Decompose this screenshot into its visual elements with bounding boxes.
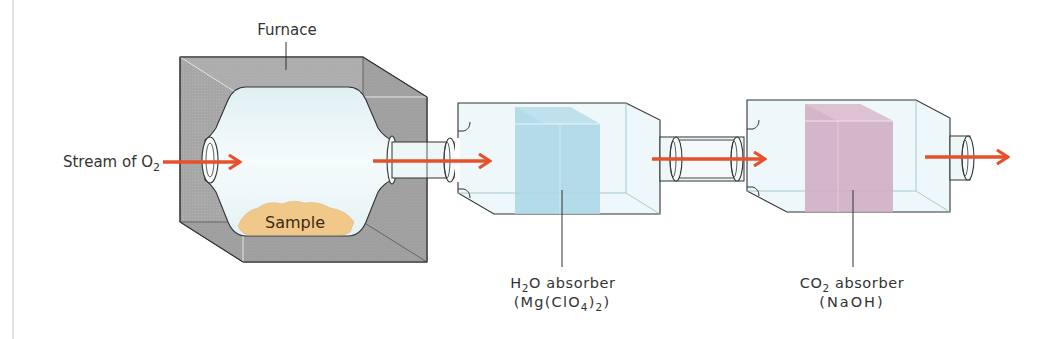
- diagram-stage: Furnace Sample: [0, 0, 1050, 339]
- co2-absorber-block: [805, 104, 893, 212]
- sample-label: Sample: [265, 213, 325, 232]
- stream-of-o2-label: Stream of O2: [63, 153, 160, 174]
- h2o-absorber-label-line2: (Mg(ClO4)2): [514, 294, 611, 313]
- co2-absorber-label-line1: CO2 absorber: [800, 275, 905, 294]
- co2-absorber-label-line2: (NaOH): [819, 294, 884, 310]
- h2o-absorber-block: [515, 107, 600, 214]
- furnace-label: Furnace: [257, 21, 316, 39]
- h2o-absorber-label-line1: H2O absorber: [510, 275, 615, 294]
